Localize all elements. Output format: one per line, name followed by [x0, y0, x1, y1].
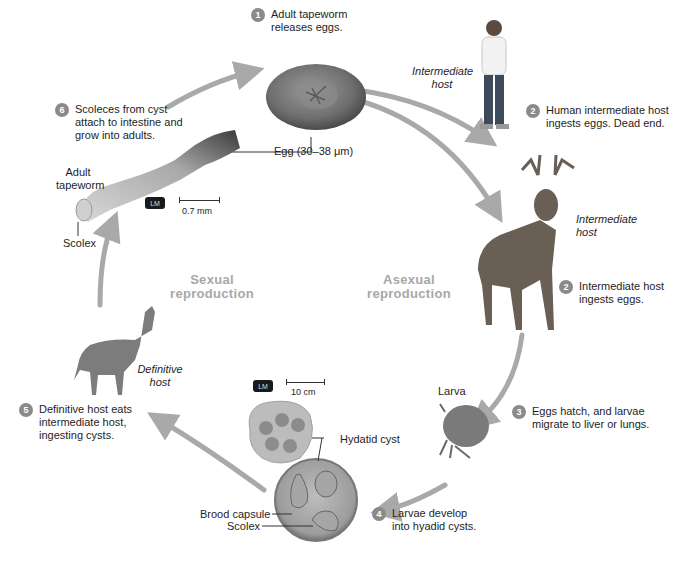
larva-label: Larva	[438, 385, 466, 398]
step-5: 5 Definitive host eats intermediate host…	[19, 403, 132, 442]
step-number-badge: 3	[512, 405, 526, 419]
asexual-reproduction-label: Asexual reproduction	[361, 273, 457, 301]
scale-length-cyst: 10 cm	[291, 386, 316, 399]
human-host-label: Intermediate host	[412, 65, 472, 91]
step-number-badge: 2	[526, 104, 540, 118]
hydatid-cyst-illustration	[275, 459, 357, 541]
cyst-cluster-illustration	[249, 401, 312, 463]
step-number-badge: 1	[251, 8, 265, 22]
wolf-host-label: Definitive host	[136, 363, 184, 389]
egg-label: Egg (30–38 μm)	[274, 145, 353, 158]
scale-bar-tapeworm	[179, 197, 220, 203]
scolex-top-label: Scolex	[63, 237, 96, 250]
sexual-reproduction-label: Sexual reproduction	[164, 273, 260, 301]
step-6: 6 Scoleces from cyst attach to intestine…	[55, 103, 183, 142]
step-number-badge: 4	[372, 507, 386, 521]
step-number-badge: 6	[55, 103, 69, 117]
step-number-badge: 5	[19, 403, 33, 417]
arrow-wolf-to-worm	[100, 225, 112, 305]
deer-host-label: Intermediate host	[576, 213, 637, 239]
egg-illustration	[266, 64, 366, 130]
step-2-human: 2 Human intermediate host ingests eggs. …	[526, 104, 669, 130]
adult-tapeworm-label: Adult tapeworm	[56, 166, 100, 192]
hydatid-cyst-label: Hydatid cyst	[340, 433, 400, 446]
lm-badge-tapeworm: LM	[145, 197, 165, 209]
arrow-6-to-1	[168, 72, 250, 107]
step-1: 1 Adult tapeworm releases eggs.	[251, 8, 347, 34]
human-illustration	[480, 20, 509, 129]
lm-badge-cyst: LM	[253, 380, 273, 392]
arrow-cyst-to-wolf	[160, 420, 264, 490]
step-4: 4 Larvae develop into hyadid cysts.	[372, 507, 476, 533]
scolex-bottom-label: Scolex	[227, 520, 260, 533]
larva-illustration	[440, 404, 489, 458]
scale-bar-cyst	[286, 379, 325, 385]
step-2-deer: 2 Intermediate host ingests eggs.	[559, 280, 664, 306]
scale-length-tapeworm: 0.7 mm	[182, 205, 212, 218]
step-3: 3 Eggs hatch, and larvae migrate to live…	[512, 405, 649, 431]
arrow-egg-to-deer	[357, 100, 495, 210]
step-number-badge: 2	[559, 280, 573, 294]
